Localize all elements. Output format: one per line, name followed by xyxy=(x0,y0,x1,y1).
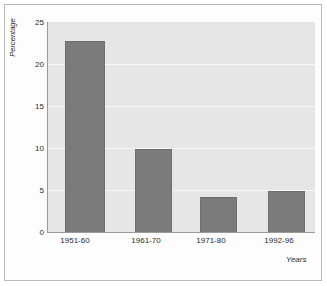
x-axis-title: Years xyxy=(286,255,306,264)
plot-area xyxy=(48,22,315,233)
x-tick-1961-70: 1961-70 xyxy=(116,236,176,245)
y-tick-5: 5 xyxy=(4,187,44,195)
x-tick-1951-60: 1951-60 xyxy=(45,236,105,245)
y-tick-15: 15 xyxy=(4,103,44,111)
bar-1951-60 xyxy=(65,41,105,233)
bar-chart-figure: 25 20 15 10 5 0 1951-60 1961-70 1971-80 … xyxy=(0,0,327,286)
y-tick-0: 0 xyxy=(4,229,44,237)
y-axis-line xyxy=(47,22,48,233)
y-axis-title: Percentage xyxy=(8,12,17,64)
y-tick-10: 10 xyxy=(4,145,44,153)
bar-1971-80 xyxy=(200,197,237,233)
bar-1961-70 xyxy=(135,149,172,233)
x-axis-line xyxy=(48,232,315,233)
x-tick-1971-80: 1971-80 xyxy=(181,236,241,245)
x-tick-1992-96: 1992-96 xyxy=(249,236,309,245)
bar-1992-96 xyxy=(268,191,305,233)
